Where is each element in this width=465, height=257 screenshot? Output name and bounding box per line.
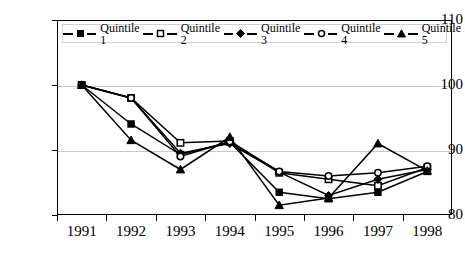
series-quintile-4 (78, 82, 430, 179)
open-square-marker-icon (155, 28, 165, 39)
legend-line-icon (63, 33, 73, 35)
legend-item: Quintile 5 (384, 22, 464, 46)
chart-legend: Quintile 1 Quintile 2 Quintile 3 Quintil… (62, 24, 447, 43)
legend-label: Quintile 2 (179, 22, 224, 46)
legend-item: Quintile 2 (143, 22, 223, 46)
open-diamond-data-point (276, 168, 282, 174)
filled-square-data-point (276, 189, 282, 195)
legend-label: Quintile 4 (339, 22, 384, 46)
legend-item: Quintile 4 (304, 22, 384, 46)
legend-line-icon (167, 33, 177, 35)
filled-triangle-data-point (176, 165, 184, 173)
legend-line-icon (87, 33, 97, 35)
legend-line-icon (328, 33, 338, 35)
filled-square-data-point (375, 189, 381, 195)
legend-line-icon (304, 33, 314, 35)
legend-line-icon (408, 33, 418, 35)
legend-label: Quintile 5 (420, 22, 465, 46)
filled-square-marker-icon (75, 28, 85, 39)
open-diamond-data-point (375, 170, 381, 176)
legend-label: Quintile 1 (98, 22, 143, 46)
open-square-data-point (177, 140, 183, 146)
legend-line-icon (143, 33, 153, 35)
filled-diamond-marker-icon (235, 28, 245, 39)
legend-item: Quintile 1 (63, 22, 143, 46)
open-diamond-marker-icon (316, 28, 326, 39)
legend-item: Quintile 3 (224, 22, 304, 46)
filled-square-data-point (128, 121, 134, 127)
legend-line-icon (224, 33, 234, 35)
open-diamond-data-point (128, 95, 134, 101)
open-diamond-data-point (325, 173, 331, 179)
filled-triangle-data-point (226, 133, 234, 141)
legend-label: Quintile 3 (259, 22, 304, 46)
open-diamond-data-point (177, 153, 183, 159)
filled-triangle-marker-icon (396, 28, 406, 39)
legend-line-icon (247, 33, 257, 35)
filled-triangle-data-point (374, 139, 382, 147)
legend-line-icon (384, 33, 394, 35)
